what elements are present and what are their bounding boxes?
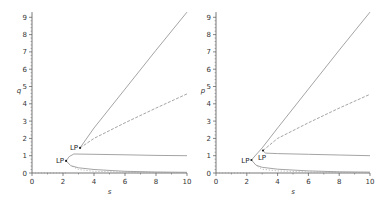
lp-label: LP	[258, 154, 266, 162]
x-axis-label: s	[291, 188, 295, 196]
lp-label: LP	[241, 157, 249, 165]
y-tick-label: 8	[207, 31, 211, 39]
y-tick-label: 8	[23, 31, 27, 39]
chart-left-svg: 02468100123456789sqLPLP	[0, 0, 195, 202]
y-tick-label: 5	[207, 83, 211, 91]
x-tick-label: 6	[123, 178, 128, 186]
chart-p-vs-s: 02468100123456789spLPLP	[184, 0, 379, 202]
y-tick-label: 7	[207, 48, 211, 56]
x-tick-label: 4	[92, 178, 97, 186]
lp-annotations: LPLP	[56, 144, 81, 165]
x-tick-label: 4	[275, 178, 280, 186]
series-line	[66, 161, 187, 172]
y-tick-label: 6	[207, 66, 212, 74]
y-tick-label: 9	[23, 14, 27, 22]
y-axis-label: p	[200, 87, 206, 95]
series-group	[32, 12, 187, 173]
y-tick-label: 4	[207, 100, 212, 108]
series-group	[216, 12, 370, 173]
chart-q-vs-s: 02468100123456789sqLPLP	[0, 0, 195, 202]
y-tick-label: 0	[23, 170, 27, 178]
lp-label: LP	[56, 157, 64, 165]
series-line	[80, 94, 187, 148]
y-tick-label: 3	[23, 118, 27, 126]
y-tick-label: 7	[23, 48, 27, 56]
x-axis-label: s	[108, 188, 112, 196]
y-tick-label: 0	[207, 170, 211, 178]
lp-marker	[250, 159, 252, 161]
x-tick-label: 0	[214, 178, 218, 186]
y-tick-label: 9	[207, 14, 211, 22]
y-tick-label: 4	[23, 100, 28, 108]
y-tick-label: 5	[23, 83, 27, 91]
y-tick-label: 2	[23, 135, 27, 143]
x-tick-label: 2	[245, 178, 249, 186]
series-line	[66, 154, 187, 161]
x-tick-label: 0	[30, 178, 34, 186]
series-line	[80, 12, 187, 148]
lp-marker	[65, 160, 67, 162]
lp-marker	[262, 149, 264, 151]
series-line	[251, 12, 370, 160]
x-tick-label: 8	[154, 178, 158, 186]
y-axis-label: q	[17, 87, 22, 95]
series-line	[263, 151, 370, 156]
plot-area-left: 02468100123456789sqLPLP	[17, 12, 192, 196]
lp-label: LP	[70, 144, 78, 152]
x-tick-label: 2	[61, 178, 65, 186]
y-tick-label: 2	[207, 135, 211, 143]
chart-right-svg: 02468100123456789spLPLP	[184, 0, 391, 202]
plot-area-right: 02468100123456789spLPLP	[200, 12, 375, 196]
x-tick-label: 6	[306, 178, 311, 186]
y-tick-label: 1	[207, 152, 211, 160]
x-tick-label: 8	[337, 178, 341, 186]
y-tick-label: 1	[23, 152, 27, 160]
x-tick-label: 10	[366, 178, 375, 186]
y-tick-label: 6	[23, 66, 28, 74]
lp-marker	[79, 147, 81, 149]
series-line	[263, 94, 370, 150]
y-tick-label: 3	[207, 118, 211, 126]
